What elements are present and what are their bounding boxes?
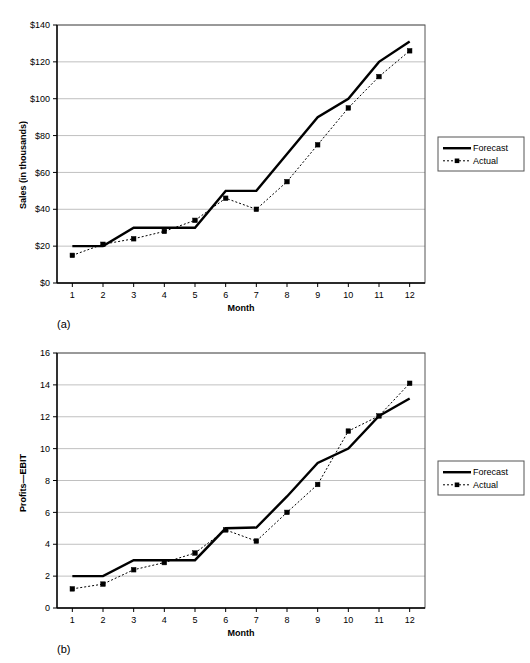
series-line-forecast <box>72 42 409 247</box>
x-axis-tick-label: 3 <box>131 290 136 300</box>
y-axis-tick-label: 12 <box>40 412 50 422</box>
x-axis-tick-label: 11 <box>374 615 383 625</box>
legend-label-actual: Actual <box>473 156 498 166</box>
x-axis-tick-label: 12 <box>405 615 415 625</box>
data-point-marker-actual <box>377 74 382 79</box>
y-axis-tick-label: $120 <box>30 57 50 67</box>
data-point-marker-actual <box>254 539 259 544</box>
y-axis-tick-label: $140 <box>30 20 50 30</box>
x-axis-tick-label: 12 <box>405 290 415 300</box>
x-axis-tick-label: 1 <box>70 615 75 625</box>
data-point-marker-actual <box>377 414 382 419</box>
legend-label-actual: Actual <box>473 480 498 490</box>
y-axis-tick-label: 16 <box>40 348 50 358</box>
x-axis-tick-label: 7 <box>254 615 259 625</box>
x-axis-tick-label: 2 <box>100 615 105 625</box>
x-axis-title-month: Month <box>181 303 301 313</box>
data-point-marker-actual <box>223 528 228 533</box>
x-axis-tick-label: 8 <box>284 615 289 625</box>
x-axis-tick-label: 9 <box>315 290 320 300</box>
data-point-marker-actual <box>101 242 106 247</box>
data-point-marker-actual <box>193 218 198 223</box>
y-axis-tick-label: 10 <box>40 444 50 454</box>
data-point-marker-actual <box>285 510 290 515</box>
data-point-marker-actual <box>101 582 106 587</box>
sales-forecast-vs-actual-chart: $0$20$40$60$80$100$120$14012345678910111… <box>0 0 530 335</box>
data-point-marker-actual <box>131 236 136 241</box>
data-point-marker-actual <box>223 196 228 201</box>
y-axis-tick-label: $100 <box>30 94 50 104</box>
x-axis-tick-label: 4 <box>162 615 167 625</box>
data-point-marker-actual <box>70 587 75 592</box>
series-line-actual <box>72 383 409 589</box>
x-axis-tick-label: 6 <box>223 615 228 625</box>
x-axis-tick-label: 1 <box>70 290 75 300</box>
y-axis-title-profits-ebit: Profits—EBIT <box>18 433 28 533</box>
y-axis-tick-label: 8 <box>45 476 50 486</box>
data-point-marker-actual <box>285 179 290 184</box>
data-point-marker-actual <box>346 429 351 434</box>
data-point-marker-actual <box>346 106 351 111</box>
y-axis-tick-label: 0 <box>45 603 50 613</box>
x-axis-tick-label: 8 <box>284 290 289 300</box>
figure-panel-b: 0246810121416123456789101112ForecastActu… <box>0 333 530 663</box>
panel-caption-a: (a) <box>57 318 70 330</box>
x-axis-tick-label: 10 <box>343 290 353 300</box>
data-point-marker-actual <box>407 49 412 54</box>
x-axis-tick-label: 10 <box>343 615 353 625</box>
data-point-marker-actual <box>315 142 320 147</box>
panel-caption-b: (b) <box>57 643 70 655</box>
x-axis-tick-label: 6 <box>223 290 228 300</box>
x-axis-tick-label: 5 <box>192 290 197 300</box>
y-axis-tick-label: $40 <box>35 204 50 214</box>
y-axis-title-sales: Sales (in thousands) <box>18 100 28 230</box>
data-point-marker-actual <box>193 551 198 556</box>
data-point-marker-actual <box>70 253 75 258</box>
plot-frame <box>57 25 425 283</box>
x-axis-tick-label: 3 <box>131 615 136 625</box>
legend-marker-actual <box>455 483 460 488</box>
data-point-marker-actual <box>254 207 259 212</box>
y-axis-tick-label: 4 <box>45 539 50 549</box>
y-axis-tick-label: 6 <box>45 508 50 518</box>
x-axis-tick-label: 2 <box>100 290 105 300</box>
series-line-forecast <box>72 398 409 576</box>
x-axis-tick-label: 5 <box>192 615 197 625</box>
data-point-marker-actual <box>162 560 167 565</box>
x-axis-tick-label: 7 <box>254 290 259 300</box>
data-point-marker-actual <box>162 229 167 234</box>
x-axis-tick-label: 4 <box>162 290 167 300</box>
legend-label-forecast: Forecast <box>473 467 509 477</box>
legend-label-forecast: Forecast <box>473 143 509 153</box>
data-point-marker-actual <box>131 567 136 572</box>
y-axis-tick-label: $60 <box>35 168 50 178</box>
x-axis-title-month: Month <box>181 628 301 638</box>
x-axis-tick-label: 11 <box>374 290 383 300</box>
data-point-marker-actual <box>315 482 320 487</box>
data-point-marker-actual <box>407 381 412 386</box>
profits-ebit-forecast-vs-actual-chart: 0246810121416123456789101112ForecastActu… <box>0 333 530 663</box>
y-axis-tick-label: $0 <box>40 278 50 288</box>
legend-marker-actual <box>455 159 460 164</box>
y-axis-tick-label: $20 <box>35 241 50 251</box>
series-line-actual <box>72 51 409 256</box>
figure-panel-a: $0$20$40$60$80$100$120$14012345678910111… <box>0 0 530 335</box>
y-axis-tick-label: $80 <box>35 131 50 141</box>
y-axis-tick-label: 2 <box>45 571 50 581</box>
x-axis-tick-label: 9 <box>315 615 320 625</box>
y-axis-tick-label: 14 <box>40 380 50 390</box>
